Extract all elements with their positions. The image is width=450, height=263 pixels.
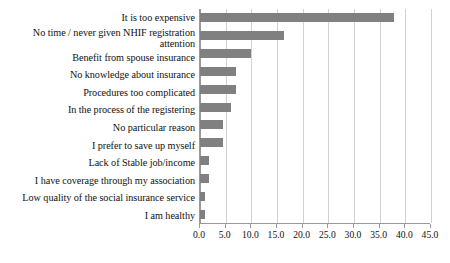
x-tick bbox=[276, 224, 277, 228]
x-tick bbox=[199, 224, 200, 228]
x-tick bbox=[353, 224, 354, 228]
bar bbox=[200, 210, 205, 219]
category-label: Procedures too complicated bbox=[0, 84, 199, 102]
bar bbox=[200, 192, 205, 201]
bar bbox=[200, 49, 251, 58]
bar-row bbox=[200, 98, 430, 116]
x-tick-label: 0.0 bbox=[193, 229, 205, 240]
x-tick bbox=[250, 224, 251, 228]
bar bbox=[200, 103, 231, 112]
bar-row bbox=[200, 187, 430, 205]
category-label: Low quality of the social insurance serv… bbox=[0, 189, 199, 207]
x-tick-label: 20.0 bbox=[293, 229, 310, 240]
x-tick bbox=[404, 224, 405, 228]
x-tick-label: 10.0 bbox=[242, 229, 259, 240]
bar-row bbox=[200, 9, 430, 27]
bar bbox=[200, 85, 236, 94]
bar bbox=[200, 67, 236, 76]
category-label: No time / never given NHIF registration … bbox=[0, 27, 199, 49]
x-tick bbox=[430, 224, 431, 228]
bar bbox=[200, 31, 284, 40]
x-tick-label: 25.0 bbox=[319, 229, 336, 240]
x-tick-label: 35.0 bbox=[370, 229, 387, 240]
bar bbox=[200, 120, 223, 129]
x-tick bbox=[225, 224, 226, 228]
category-label: No knowledge about insurance bbox=[0, 66, 199, 84]
gridline bbox=[431, 9, 432, 223]
x-tick bbox=[379, 224, 380, 228]
x-tick bbox=[327, 224, 328, 228]
bar-row bbox=[200, 169, 430, 187]
bar-row bbox=[200, 27, 430, 45]
category-label: I prefer to save up myself bbox=[0, 136, 199, 154]
x-tick-label: 45.0 bbox=[422, 229, 439, 240]
category-label: Benefit from spouse insurance bbox=[0, 49, 199, 67]
bar-row bbox=[200, 134, 430, 152]
bar bbox=[200, 174, 209, 183]
category-label: Lack of Stable job/income bbox=[0, 154, 199, 172]
x-tick-label: 30.0 bbox=[345, 229, 362, 240]
x-tick-label: 5.0 bbox=[219, 229, 231, 240]
bar-row bbox=[200, 205, 430, 223]
bar-row bbox=[200, 62, 430, 80]
bar-chart: It is too expensiveNo time / never given… bbox=[0, 0, 450, 263]
bar-row bbox=[200, 152, 430, 170]
x-axis: 0.05.010.015.020.025.030.035.040.045.0 bbox=[199, 224, 430, 254]
category-axis-labels: It is too expensiveNo time / never given… bbox=[0, 9, 199, 224]
category-label: I am healthy bbox=[0, 207, 199, 225]
bar bbox=[200, 13, 394, 22]
x-tick-label: 15.0 bbox=[268, 229, 285, 240]
plot-area bbox=[199, 9, 430, 224]
category-label: It is too expensive bbox=[0, 9, 199, 27]
bar-row bbox=[200, 116, 430, 134]
category-label: In the process of the registering bbox=[0, 101, 199, 119]
category-label: I have coverage through my association bbox=[0, 171, 199, 189]
bar-row bbox=[200, 80, 430, 98]
bar-row bbox=[200, 45, 430, 63]
bar bbox=[200, 138, 223, 147]
x-tick-label: 40.0 bbox=[396, 229, 413, 240]
bar-series bbox=[200, 9, 430, 223]
x-tick bbox=[302, 224, 303, 228]
category-label: No particular reason bbox=[0, 119, 199, 137]
chart-plot-region: It is too expensiveNo time / never given… bbox=[0, 9, 450, 224]
bar bbox=[200, 156, 209, 165]
